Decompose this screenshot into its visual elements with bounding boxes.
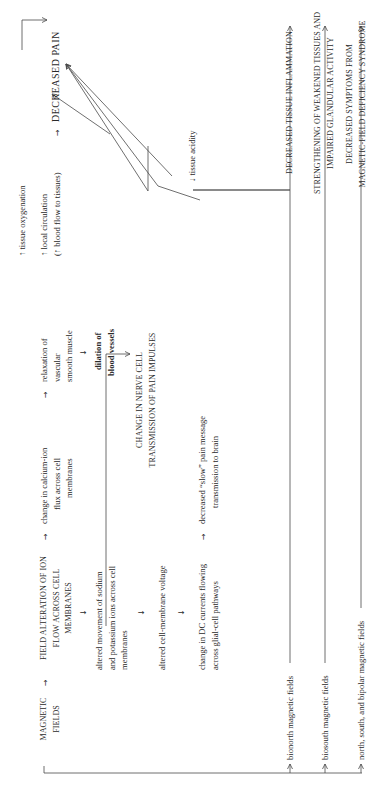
muscle-line1: relaxation of [38, 330, 51, 382]
membrane-voltage-node: altered cell-membrane voltage [156, 565, 169, 670]
sodium-line3: membranes [118, 566, 131, 670]
magnetic-label-line2: FIELDS [51, 688, 64, 750]
deficiency-line2: MAGNETIC-FIELD DEFICIENCY SYNDROME [357, 4, 370, 204]
result-deficiency-syndrome: DECREASED SYMPTOMS FROM MAGNETIC-FIELD D… [344, 4, 369, 204]
arrow-right-icon: → [52, 129, 65, 136]
magnetic-fields-label: MAGNETIC FIELDS [38, 688, 63, 750]
field-type-biosouth: biosouth magnetic fields [319, 676, 332, 761]
nerve-line1: CHANGE IN NERVE CELL [134, 320, 147, 480]
decreased-pain-outcome: DECREASED PAIN [50, 31, 63, 122]
voltage-line1: altered cell-membrane voltage [156, 565, 169, 670]
arrow-right-icon: → [40, 533, 53, 540]
field-alteration-node: FIELD ALTERATION OF ION FLOW ACROSS CELL… [38, 546, 76, 670]
arrow-right-icon: → [40, 391, 53, 398]
dilation-line2: blood vessels [105, 329, 118, 376]
dilation-node: dilation of blood vessels [92, 329, 117, 376]
field-alteration-line2: FLOW ACROSS CELL [51, 546, 64, 670]
result-tissue-inflammation: DECREASED TISSUE INFLAMMATION [284, 31, 297, 174]
sodium-line1: altered movement of sodium [93, 566, 106, 670]
arrow-down-icon: ↓ [78, 609, 91, 616]
flowchart-canvas: MAGNETIC FIELDS → FIELD ALTERATION OF IO… [0, 0, 373, 786]
nerve-cell-node: CHANGE IN NERVE CELL TRANSMISSION OF PAI… [134, 320, 159, 480]
acidity-to-pain [66, 64, 172, 176]
arrow-down-icon: ↓ [136, 609, 149, 616]
acidity-node: ↓ tissue acidity [186, 130, 199, 182]
slow-line1: decreased “slow” pain message [196, 416, 209, 524]
field-alteration-line1: FIELD ALTERATION OF ION [38, 546, 51, 670]
arrow-right-icon: → [198, 533, 211, 540]
deficiency-line1: DECREASED SYMPTOMS FROM [344, 4, 357, 204]
arrow-down-icon: ↓ [176, 609, 189, 616]
dc-line2: across glial-cell pathways [209, 564, 222, 670]
sodium-potassium-node: altered movement of sodium and potassium… [93, 566, 131, 670]
muscle-line2: vascular [51, 330, 64, 382]
smooth-muscle-node: relaxation of vascular smooth muscle [38, 330, 76, 382]
arrow-right-icon: → [40, 679, 53, 686]
calcium-line2: flux across cell [51, 448, 64, 524]
circulation-line2: (↑ blood flow to tissues) [51, 172, 64, 256]
slow-pain-to-pain [66, 64, 200, 200]
arrow-down-icon: ↓ [78, 349, 91, 356]
magnetic-label-line1: MAGNETIC [38, 688, 51, 750]
circulation-line1: ↑ local circulation [38, 172, 51, 256]
circulation-node: ↑ local circulation (↑ blood flow to tis… [38, 172, 63, 256]
strengthening-line1: STRENGTHENING OF WEAKENED TISSUES AND [312, 0, 325, 208]
slow-pain-node: decreased “slow” pain message transmissi… [196, 416, 221, 524]
result-strengthening: STRENGTHENING OF WEAKENED TISSUES AND IM… [312, 0, 337, 208]
slow-line2: transmission to brain [209, 416, 222, 524]
sodium-line2: and potassium ions across cell [106, 566, 119, 670]
nerve-line2: TRANSMISSION OF PAIN IMPULSES [147, 320, 160, 480]
field-type-bionorth: bionorth magnetic fields [284, 676, 297, 760]
dc-line1: change in DC currents flowing [196, 564, 209, 670]
dilation-line1: dilation of [92, 329, 105, 376]
field-alteration-line3: MEMBRANES [63, 546, 76, 670]
oxygenation-node: ↑ tissue oxygenation [16, 185, 29, 256]
strengthening-line2: IMPAIRED GLANDULAR ACTIVITY [325, 0, 338, 208]
muscle-line3: smooth muscle [63, 330, 76, 382]
field-type-bipolar: north, south, and bipolar magnetic field… [355, 621, 368, 760]
calcium-line3: membranes [63, 448, 76, 524]
dc-currents-node: change in DC currents flowing across gli… [196, 564, 221, 670]
nerve-cell-to-pain [66, 64, 148, 191]
calcium-flux-node: change in calcium-ion flux across cell m… [38, 448, 76, 524]
calcium-line1: change in calcium-ion [38, 448, 51, 524]
